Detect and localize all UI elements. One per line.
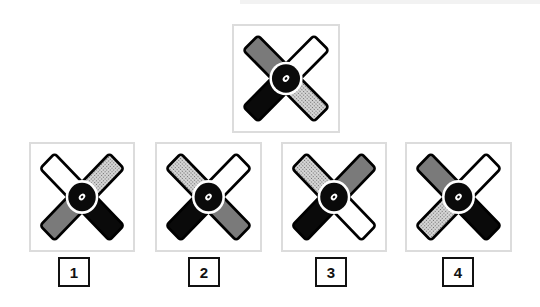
pinwheel-icon [283, 144, 385, 250]
option-4-figure[interactable] [405, 142, 512, 252]
option-2-label[interactable]: 2 [188, 257, 220, 287]
option-1-figure[interactable] [29, 142, 135, 252]
option-3-figure[interactable] [281, 142, 387, 252]
option-2-figure[interactable] [155, 142, 262, 252]
pinwheel-icon [157, 144, 260, 250]
option-4-label[interactable]: 4 [442, 257, 474, 287]
question-figure [232, 24, 340, 133]
pinwheel-icon [234, 26, 338, 131]
option-3-label[interactable]: 3 [315, 257, 347, 287]
option-1-label[interactable]: 1 [58, 257, 90, 287]
pinwheel-icon [31, 144, 133, 250]
pinwheel-icon [407, 144, 510, 250]
top-edge-shade [240, 0, 540, 4]
